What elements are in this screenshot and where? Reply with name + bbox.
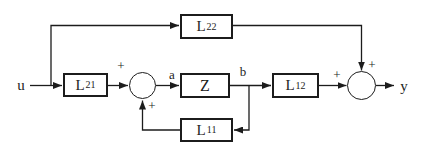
block-l12-subscript: 12 <box>296 81 306 91</box>
plus-sign-sum1-bottom-input: + <box>148 99 155 112</box>
block-z: Z <box>180 73 230 98</box>
block-l12: L12 <box>272 73 319 98</box>
block-diagram: L22 L21 Z L12 L11 u y a b + + + + <box>0 0 423 152</box>
signal-label-a: a <box>169 68 175 81</box>
input-signal-label: u <box>17 78 25 93</box>
plus-sign-sum2-left-input: + <box>333 68 340 81</box>
signal-label-b: b <box>240 65 247 78</box>
block-l21: L21 <box>63 73 108 97</box>
block-l11: L11 <box>180 118 233 142</box>
plus-sign-sum1-top-input: + <box>117 59 124 72</box>
wire-l22-to-sum2 <box>233 26 362 71</box>
block-l22-label: L <box>196 19 205 34</box>
block-l22-subscript: 22 <box>207 22 217 32</box>
block-l21-label: L <box>75 78 84 93</box>
plus-sign-sum2-top-input: + <box>368 58 375 71</box>
block-z-label: Z <box>200 78 210 94</box>
summing-junction-left <box>129 72 156 99</box>
block-l22: L22 <box>180 14 233 39</box>
block-l12-label: L <box>285 78 294 93</box>
block-l21-subscript: 21 <box>86 80 96 90</box>
output-signal-label: y <box>400 79 408 94</box>
summing-junction-right <box>347 71 376 100</box>
block-l11-label: L <box>197 123 206 138</box>
block-l11-subscript: 11 <box>207 125 217 135</box>
wire-b-branch-to-l11 <box>234 86 249 131</box>
